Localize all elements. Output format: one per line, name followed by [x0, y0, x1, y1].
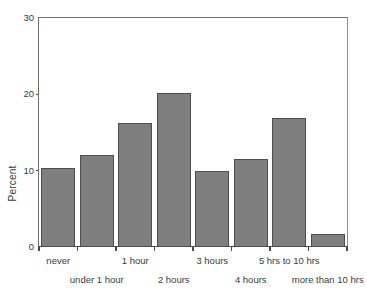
bar: [118, 123, 152, 247]
bar: [234, 159, 268, 247]
bar: [311, 234, 345, 247]
y-tick-label: 20: [8, 89, 34, 99]
x-tick-mark: [154, 247, 155, 251]
y-tick-label: 10: [8, 166, 34, 176]
bar-chart: Percent 0102030 neverunder 1 hour1 hour2…: [0, 0, 367, 295]
y-tick-label: 0: [8, 242, 34, 252]
bar: [157, 93, 191, 247]
x-axis-label: more than 10 hrs: [278, 275, 367, 285]
x-tick-mark: [346, 247, 347, 251]
x-tick-mark: [38, 247, 39, 251]
x-tick-mark: [192, 247, 193, 251]
x-axis-label: 5 hrs to 10 hrs: [239, 256, 339, 266]
x-tick-mark: [231, 247, 232, 251]
x-tick-mark: [77, 247, 78, 251]
y-axis-title: Percent: [7, 154, 18, 214]
bar: [195, 171, 229, 247]
bar-series: [39, 18, 347, 247]
x-tick-mark: [308, 247, 309, 251]
x-tick-mark: [115, 247, 116, 251]
bar: [41, 168, 75, 247]
bar: [272, 118, 306, 247]
x-tick-mark: [269, 247, 270, 251]
bar: [80, 155, 114, 247]
y-tick-label: 30: [8, 13, 34, 23]
